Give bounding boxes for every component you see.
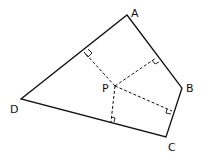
perpendicular-to-AD [84,52,115,86]
label-P: P [102,82,109,95]
diagram-svg: A B C D P [0,0,203,157]
perpendicular-to-BC [115,86,172,111]
diagram-canvas: A B C D P [0,0,203,157]
label-B: B [186,82,194,95]
label-C: C [168,141,176,154]
perpendicular-to-DC [111,86,115,122]
quadrilateral-ABCD [21,15,182,137]
perpendicular-to-AB [115,58,156,86]
label-A: A [131,7,139,20]
label-D: D [10,103,18,116]
